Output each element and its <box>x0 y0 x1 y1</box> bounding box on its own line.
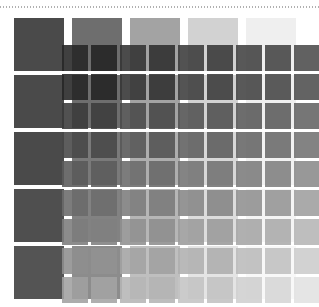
grid-cell <box>294 190 319 216</box>
grid-cell <box>149 190 175 216</box>
grid-cell <box>265 103 291 129</box>
grid-cell <box>91 74 117 100</box>
grid-cell <box>62 219 88 245</box>
grid-cell <box>236 161 262 187</box>
grid-cell <box>120 219 146 245</box>
grid-cell <box>236 45 262 71</box>
grid-cell <box>178 103 204 129</box>
grid-cell <box>149 74 175 100</box>
grid-cell <box>91 190 117 216</box>
grid-cell <box>62 161 88 187</box>
grid-cell <box>149 103 175 129</box>
fine-grid-layer <box>0 0 319 307</box>
grid-cell <box>149 132 175 158</box>
grid-cell <box>91 219 117 245</box>
grid-cell <box>265 74 291 100</box>
grid-cell <box>265 45 291 71</box>
grid-cell <box>294 248 319 274</box>
figure-canvas <box>0 0 319 307</box>
grid-cell <box>91 161 117 187</box>
grid-cell <box>207 219 233 245</box>
grid-cell <box>178 132 204 158</box>
grid-cell <box>265 132 291 158</box>
grid-cell <box>62 132 88 158</box>
grid-cell <box>120 248 146 274</box>
grid-cell <box>91 45 117 71</box>
grid-cell <box>207 74 233 100</box>
grid-cell <box>207 190 233 216</box>
grid-cell <box>178 277 204 303</box>
grid-cell <box>294 277 319 303</box>
grid-cell <box>149 219 175 245</box>
grid-cell <box>236 190 262 216</box>
grid-cell <box>207 132 233 158</box>
grid-cell <box>294 161 319 187</box>
grid-cell <box>236 132 262 158</box>
grid-cell <box>62 190 88 216</box>
grid-cell <box>91 103 117 129</box>
grid-cell <box>149 248 175 274</box>
grid-cell <box>120 132 146 158</box>
grid-cell <box>236 219 262 245</box>
grid-cell <box>62 74 88 100</box>
grid-cell <box>236 103 262 129</box>
grid-cell <box>294 219 319 245</box>
grid-cell <box>207 45 233 71</box>
grid-cell <box>294 132 319 158</box>
grid-cell <box>265 190 291 216</box>
grid-cell <box>149 45 175 71</box>
grid-cell <box>120 103 146 129</box>
grid-cell <box>178 161 204 187</box>
grid-cell <box>120 74 146 100</box>
grid-cell <box>120 45 146 71</box>
grid-cell <box>62 277 88 303</box>
grid-cell <box>91 248 117 274</box>
grid-cell <box>120 277 146 303</box>
grid-cell <box>207 161 233 187</box>
grid-cell <box>120 161 146 187</box>
grid-cell <box>62 248 88 274</box>
grid-cell <box>236 248 262 274</box>
grid-cell <box>236 277 262 303</box>
grid-cell <box>91 132 117 158</box>
grid-cell <box>236 74 262 100</box>
grid-cell <box>294 103 319 129</box>
grid-cell <box>120 190 146 216</box>
grid-cell <box>178 190 204 216</box>
grid-cell <box>178 74 204 100</box>
grid-cell <box>207 248 233 274</box>
grid-cell <box>265 277 291 303</box>
grid-cell <box>178 248 204 274</box>
grid-cell <box>91 277 117 303</box>
grid-cell <box>178 45 204 71</box>
grid-cell <box>178 219 204 245</box>
grid-cell <box>294 74 319 100</box>
grid-cell <box>62 45 88 71</box>
grid-cell <box>149 161 175 187</box>
grid-cell <box>207 277 233 303</box>
grid-cell <box>265 219 291 245</box>
grid-cell <box>265 248 291 274</box>
grid-cell <box>149 277 175 303</box>
grid-cell <box>207 103 233 129</box>
grid-cell <box>265 161 291 187</box>
grid-cell <box>294 45 319 71</box>
grid-cell <box>62 103 88 129</box>
